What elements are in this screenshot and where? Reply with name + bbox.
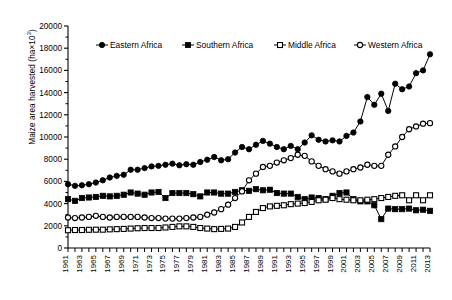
legend-label: Eastern Africa xyxy=(110,40,162,50)
data-point xyxy=(351,167,356,172)
data-point xyxy=(253,209,258,214)
legend-marker-filled-square xyxy=(185,42,190,47)
data-point xyxy=(232,195,237,200)
data-point xyxy=(372,163,377,168)
data-point xyxy=(205,226,210,231)
data-point xyxy=(225,157,230,162)
data-point xyxy=(420,68,425,73)
data-point xyxy=(267,163,272,168)
data-point xyxy=(281,147,286,152)
data-point xyxy=(135,191,140,196)
data-point xyxy=(253,142,258,147)
y-axis-tick-label: 4000 xyxy=(44,200,63,209)
data-point xyxy=(226,202,231,207)
data-point xyxy=(337,139,342,144)
data-point xyxy=(128,214,133,219)
data-point xyxy=(267,204,272,209)
data-point xyxy=(107,215,112,220)
data-point xyxy=(184,224,189,229)
x-axis-tick-label: 2013 xyxy=(423,254,432,272)
data-point xyxy=(184,215,189,220)
data-point xyxy=(114,214,119,219)
data-point xyxy=(295,201,300,206)
x-axis-tick-label: 1981 xyxy=(200,254,209,272)
data-point xyxy=(107,227,112,232)
data-point xyxy=(93,180,98,185)
data-point xyxy=(100,227,105,232)
data-point xyxy=(121,172,126,177)
data-point xyxy=(295,152,300,157)
data-point xyxy=(372,203,377,208)
data-point xyxy=(400,207,405,212)
data-point xyxy=(427,208,432,213)
y-axis-tick-label: 2000 xyxy=(44,222,63,231)
data-point xyxy=(323,139,328,144)
data-point xyxy=(212,227,217,232)
data-point xyxy=(330,169,335,174)
data-point xyxy=(351,198,356,203)
legend-label: Middle Africa xyxy=(288,40,336,50)
data-point xyxy=(260,138,265,143)
data-point xyxy=(226,226,231,231)
x-axis-tick-label: 2003 xyxy=(353,254,362,272)
legend-label: Western Africa xyxy=(368,40,423,50)
data-point xyxy=(407,127,412,132)
data-point xyxy=(309,133,314,138)
data-point xyxy=(93,213,98,218)
data-point xyxy=(135,226,140,231)
data-point xyxy=(246,178,251,183)
data-point xyxy=(198,226,203,231)
x-axis-tick-label: 1977 xyxy=(172,254,181,272)
data-point xyxy=(407,198,412,203)
data-point xyxy=(393,193,398,198)
data-point xyxy=(142,226,147,231)
x-axis-tick-label: 2005 xyxy=(367,254,376,272)
data-point xyxy=(233,224,238,229)
data-point xyxy=(393,207,398,212)
data-point xyxy=(267,141,272,146)
x-axis-tick-label: 1971 xyxy=(131,254,140,272)
data-point xyxy=(114,227,119,232)
maize-area-harvested-chart: Maize area harvested (ha×103) 0200040006… xyxy=(0,0,452,300)
data-point xyxy=(400,134,405,139)
data-point xyxy=(205,212,210,217)
data-point xyxy=(170,216,175,221)
data-point xyxy=(302,153,307,158)
data-point xyxy=(379,217,384,222)
data-point xyxy=(66,228,71,233)
x-axis-tick-label: 1979 xyxy=(186,254,195,272)
x-axis-tick-label: 2007 xyxy=(381,254,390,272)
data-point xyxy=(121,214,126,219)
data-point xyxy=(267,187,272,192)
data-point xyxy=(212,190,217,195)
data-point xyxy=(100,178,105,183)
data-point xyxy=(316,198,321,203)
data-point xyxy=(260,164,265,169)
data-point xyxy=(428,193,433,198)
data-point xyxy=(65,181,70,186)
data-point xyxy=(177,216,182,221)
data-point xyxy=(413,124,418,129)
data-point xyxy=(86,214,91,219)
data-point xyxy=(170,224,175,229)
data-point xyxy=(421,198,426,203)
x-axis-tick-label: 1967 xyxy=(103,254,112,272)
data-point xyxy=(72,198,77,203)
data-point xyxy=(107,194,112,199)
data-point xyxy=(288,202,293,207)
data-point xyxy=(128,190,133,195)
data-point xyxy=(253,171,258,176)
data-point xyxy=(281,191,286,196)
x-axis-tick-label: 1973 xyxy=(145,254,154,272)
data-point xyxy=(316,163,321,168)
data-point xyxy=(156,163,161,168)
data-point xyxy=(337,190,342,195)
data-point xyxy=(365,197,370,202)
data-point xyxy=(65,197,70,202)
data-point xyxy=(100,193,105,198)
data-point xyxy=(337,197,342,202)
data-point xyxy=(142,215,147,220)
data-point xyxy=(205,190,210,195)
data-point xyxy=(274,144,279,149)
data-point xyxy=(128,167,133,172)
